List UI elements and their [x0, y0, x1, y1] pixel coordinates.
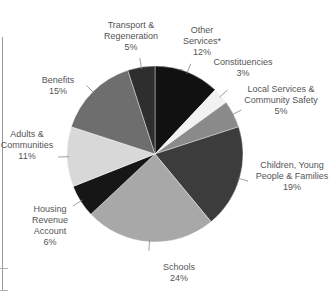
label-text: Children, Young: [256, 160, 329, 171]
label-text: Benefits: [42, 75, 75, 86]
label-text: Community Safety: [244, 95, 318, 106]
label-pct: 24%: [163, 273, 195, 284]
label-pct: 19%: [256, 182, 329, 193]
label-text: Other: [183, 25, 221, 36]
label-local-services: Local Services & Community Safety 5%: [244, 84, 318, 117]
label-benefits: Benefits 15%: [42, 75, 75, 97]
label-pct: 5%: [104, 42, 158, 53]
label-text: Adults &: [1, 129, 54, 140]
label-adults: Adults & Communities 11%: [1, 129, 54, 162]
label-children: Children, Young People & Families 19%: [256, 160, 329, 193]
label-pct: 3%: [213, 68, 272, 79]
label-text: Communities: [1, 140, 54, 151]
label-text: Services*: [183, 36, 221, 47]
leader-line: [220, 90, 228, 97]
label-constituencies: Constituencies 3%: [213, 57, 272, 79]
label-pct: 5%: [244, 106, 318, 117]
label-text: People & Families: [256, 171, 329, 182]
label-other-services: Other Services* 12%: [183, 25, 221, 58]
label-pct: 6%: [32, 237, 68, 248]
label-schools: Schools 24%: [163, 262, 195, 284]
label-transport: Transport & Regeneration 5%: [104, 20, 158, 53]
label-housing: Housing Revenue Account 6%: [32, 204, 68, 248]
label-pct: 11%: [1, 151, 54, 162]
leader-line: [232, 110, 242, 115]
label-text: Constituencies: [213, 57, 272, 68]
label-text: Schools: [163, 262, 195, 273]
label-text: Regeneration: [104, 31, 158, 42]
label-text: Revenue: [32, 215, 68, 226]
label-text: Account: [32, 226, 68, 237]
label-pct: 15%: [42, 86, 75, 97]
leader-line: [73, 200, 82, 206]
label-text: Transport &: [104, 20, 158, 31]
label-text: Housing: [32, 204, 68, 215]
leader-line: [86, 85, 94, 93]
label-text: Local Services &: [244, 84, 318, 95]
